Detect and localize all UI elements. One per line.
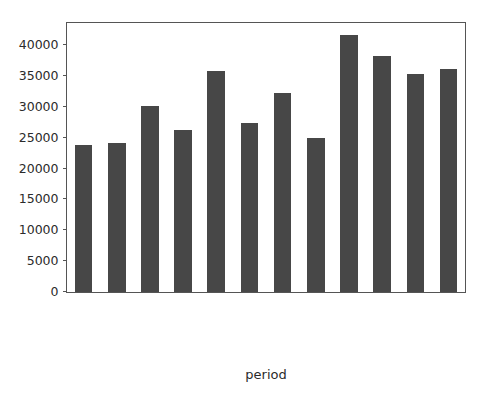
- y-axis-tick-label: 20000: [19, 162, 59, 175]
- y-axis-tick-label: 15000: [19, 193, 59, 206]
- bar-slot: 2019-03-01: [133, 23, 166, 292]
- y-axis-tick-label: 25000: [19, 132, 59, 145]
- y-axis-tick-label: 40000: [19, 39, 59, 52]
- bar: [340, 35, 358, 292]
- bar: [141, 106, 159, 292]
- bar-slot: 2019-11-01: [399, 23, 432, 292]
- y-axis-tick-label: 0: [51, 286, 59, 299]
- bar: [108, 143, 126, 292]
- bar-series: 2019-01-012019-02-012019-03-012019-04-01…: [67, 23, 465, 292]
- bar: [407, 74, 425, 292]
- bar: [174, 130, 192, 292]
- bar: [75, 145, 93, 292]
- bar-slot: 2019-01-01: [67, 23, 100, 292]
- chart-figure: 0500010000150002000025000300003500040000…: [0, 0, 483, 397]
- plot-axes: 0500010000150002000025000300003500040000…: [66, 22, 466, 293]
- y-axis-tick-label: 35000: [19, 70, 59, 83]
- bar-slot: 2019-06-01: [233, 23, 266, 292]
- bar-slot: 2019-05-01: [200, 23, 233, 292]
- plot-area: 2019-01-012019-02-012019-03-012019-04-01…: [67, 23, 465, 292]
- y-axis-tick-label: 5000: [27, 255, 59, 268]
- x-axis-title: period: [66, 368, 466, 381]
- bar-slot: 2019-09-01: [332, 23, 365, 292]
- y-axis-tick-label: 30000: [19, 101, 59, 114]
- bar-slot: 2019-12-01: [432, 23, 465, 292]
- bar: [307, 138, 325, 292]
- bar: [207, 71, 225, 292]
- bar: [274, 93, 292, 292]
- bar: [440, 69, 458, 292]
- bar-slot: 2019-02-01: [100, 23, 133, 292]
- y-axis-tick-label: 10000: [19, 224, 59, 237]
- bar-slot: 2019-08-01: [299, 23, 332, 292]
- bar-slot: 2019-04-01: [167, 23, 200, 292]
- bar-slot: 2019-07-01: [266, 23, 299, 292]
- bar: [241, 123, 259, 292]
- bar-slot: 2019-10-01: [366, 23, 399, 292]
- bar: [373, 56, 391, 292]
